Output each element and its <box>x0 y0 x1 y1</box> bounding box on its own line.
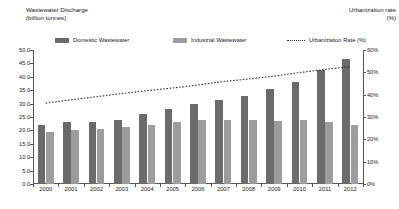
y-axis-tick-label: 40.0 <box>19 74 30 80</box>
y-axis-tick-label: 45.0 <box>19 60 30 66</box>
y-axis-tick-label: 20.0 <box>19 127 30 133</box>
x-axis-tick-label: 2003 <box>115 186 128 192</box>
x-axis-tick-mark <box>338 184 339 187</box>
legend-swatch-domestic <box>55 38 69 43</box>
x-axis-tick-label: 2010 <box>293 186 306 192</box>
x-axis-tick-mark <box>185 184 186 187</box>
y2-axis-tick-mark <box>363 72 366 73</box>
legend-item-domestic[interactable]: Domestic Wastewater <box>55 34 129 46</box>
y2-axis-tick-label: 40% <box>367 92 378 98</box>
legend-item-urbanization[interactable]: Urbanization Rate (%) <box>287 34 366 46</box>
x-axis-tick-label: 2004 <box>141 186 154 192</box>
x-axis-tick-mark <box>261 184 262 187</box>
y2-axis-tick-label: 10% <box>367 159 378 165</box>
x-axis-tick-mark <box>160 184 161 187</box>
x-axis-tick-label: 2005 <box>166 186 179 192</box>
y-axis-tick-label: 10.0 <box>19 154 30 160</box>
x-axis-tick-label: 2001 <box>65 186 78 192</box>
legend-label-industrial: Industrial Wastewater <box>191 37 247 43</box>
x-axis-tick-label: 2006 <box>192 186 205 192</box>
x-axis-tick-label: 2002 <box>90 186 103 192</box>
y-axis-tick-label: 50.0 <box>19 47 30 53</box>
x-axis-tick-label: 2009 <box>268 186 281 192</box>
chart-legend: Domestic Wastewater Industrial Wastewate… <box>55 34 365 46</box>
y2-axis-tick-mark <box>363 162 366 163</box>
legend-item-industrial[interactable]: Industrial Wastewater <box>173 34 247 46</box>
legend-dotted-line-icon <box>287 40 305 41</box>
y2-axis-tick-mark <box>363 50 366 51</box>
y2-axis-tick-mark <box>363 95 366 96</box>
legend-label-urbanization: Urbanization Rate (%) <box>309 37 366 43</box>
x-axis-tick-label: 2000 <box>39 186 52 192</box>
y2-axis-tick-mark <box>363 139 366 140</box>
x-axis-tick-mark <box>109 184 110 187</box>
y-axis-tick-label: 5.0 <box>22 168 30 174</box>
y2-axis-tick-label: 60% <box>367 47 378 53</box>
x-axis-tick-mark <box>135 184 136 187</box>
y2-axis-tick-label: 50% <box>367 69 378 75</box>
urbanization-line-series <box>33 50 363 184</box>
x-axis-tick-mark <box>33 184 34 187</box>
x-axis-tick-label: 2007 <box>217 186 230 192</box>
x-axis-tick-mark <box>84 184 85 187</box>
plot-area: 0.05.010.015.020.025.030.035.040.045.050… <box>33 50 363 184</box>
x-axis-tick-mark <box>58 184 59 187</box>
left-axis-title: Wastewater Discharge (billion tonnes) <box>26 6 88 22</box>
wastewater-urbanization-chart: Wastewater Discharge (billion tonnes) Ur… <box>0 0 399 209</box>
x-axis-tick-mark <box>211 184 212 187</box>
legend-swatch-industrial <box>173 38 187 43</box>
y-axis-tick-label: 25.0 <box>19 114 30 120</box>
y2-axis-tick-label: 0% <box>367 181 375 187</box>
legend-label-domestic: Domestic Wastewater <box>73 37 129 43</box>
x-axis-tick-label: 2012 <box>344 186 357 192</box>
right-axis-title: Urbanization rate (%) <box>349 6 396 22</box>
y2-axis-tick-mark <box>363 117 366 118</box>
x-axis-tick-mark <box>287 184 288 187</box>
y2-axis-tick-label: 30% <box>367 114 378 120</box>
y-axis-tick-label: 0.0 <box>22 181 30 187</box>
y-axis-tick-label: 30.0 <box>19 101 30 107</box>
x-axis-tick-mark <box>236 184 237 187</box>
x-axis-tick-mark <box>363 184 364 187</box>
y-axis-tick-label: 15.0 <box>19 141 30 147</box>
x-axis-tick-label: 2011 <box>319 186 331 192</box>
x-axis-tick-mark <box>312 184 313 187</box>
y2-axis-tick-label: 20% <box>367 136 378 142</box>
x-axis-tick-label: 2008 <box>242 186 255 192</box>
y-axis-tick-label: 35.0 <box>19 87 30 93</box>
urbanization-polyline <box>46 67 351 104</box>
